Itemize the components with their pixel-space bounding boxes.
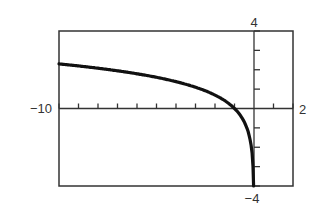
xmin-label: −10 — [30, 101, 52, 116]
function-curve — [59, 64, 254, 186]
ymin-label: −4 — [245, 191, 260, 206]
graph-window: −10 2 4 −4 — [0, 0, 318, 206]
xmax-label: 2 — [299, 102, 306, 117]
ymax-label: 4 — [250, 15, 257, 30]
axes — [59, 31, 293, 186]
